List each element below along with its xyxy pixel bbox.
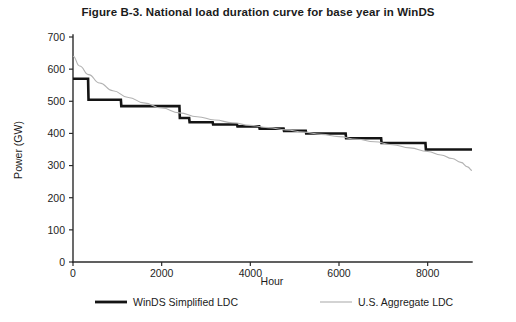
x-axis-title: Hour bbox=[261, 275, 284, 287]
y-tick-label: 700 bbox=[47, 31, 65, 43]
y-tick-label: 200 bbox=[47, 192, 65, 204]
y-axis-group: 0100200300400500600700 Power (GW) bbox=[12, 31, 73, 268]
series-line-2 bbox=[73, 56, 472, 170]
y-axis-ticks: 0100200300400500600700 bbox=[47, 31, 73, 268]
legend-label-2: U.S. Aggregate LDC bbox=[358, 296, 454, 308]
chart-legend: WinDS Simplified LDCU.S. Aggregate LDC bbox=[95, 296, 454, 308]
x-axis-group: 02000400060008000 Hour bbox=[70, 262, 472, 287]
y-tick-label: 500 bbox=[47, 95, 65, 107]
figure-container: Figure B-3. National load duration curve… bbox=[0, 0, 516, 322]
y-tick-label: 100 bbox=[47, 224, 65, 236]
x-tick-label: 6000 bbox=[327, 267, 351, 279]
x-tick-label: 8000 bbox=[416, 267, 440, 279]
y-axis-title: Power (GW) bbox=[12, 121, 24, 179]
data-series-group bbox=[73, 56, 472, 170]
x-tick-label: 4000 bbox=[239, 267, 263, 279]
x-tick-label: 2000 bbox=[150, 267, 174, 279]
y-tick-label: 0 bbox=[59, 256, 65, 268]
x-tick-label: 0 bbox=[70, 267, 76, 279]
y-tick-label: 400 bbox=[47, 127, 65, 139]
x-axis-ticks: 02000400060008000 bbox=[70, 262, 439, 279]
load-duration-curve-chart: 0100200300400500600700 Power (GW) 020004… bbox=[0, 0, 516, 322]
y-tick-label: 600 bbox=[47, 63, 65, 75]
legend-label-1: WinDS Simplified LDC bbox=[133, 296, 238, 308]
series-line-1 bbox=[73, 79, 472, 150]
y-tick-label: 300 bbox=[47, 159, 65, 171]
